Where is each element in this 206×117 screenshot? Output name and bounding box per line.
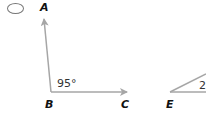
point-label-b: B: [45, 99, 53, 110]
angle-b-value: 95°: [57, 78, 77, 89]
angle-e-value-partial: 2: [199, 80, 206, 91]
ray-ba: [44, 19, 51, 92]
point-label-e: E: [166, 99, 174, 110]
point-label-a: A: [40, 2, 49, 13]
geometry-figure: A 95° B C E 2: [0, 0, 206, 117]
point-label-c: C: [121, 99, 129, 110]
angle-lines: [0, 0, 206, 117]
